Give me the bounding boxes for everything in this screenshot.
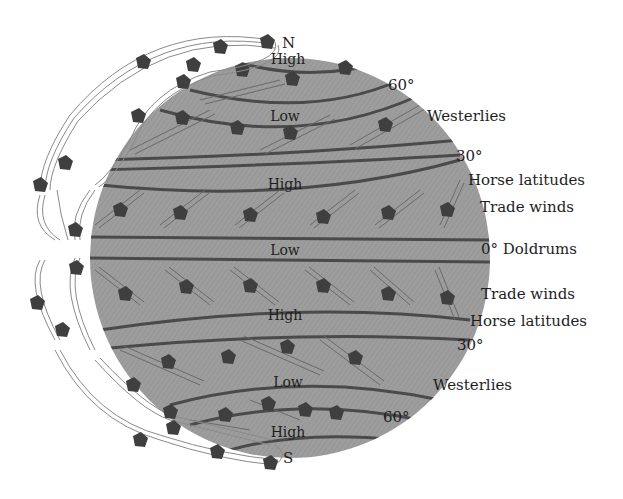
band-label-south-polar-high: High — [271, 424, 306, 440]
band-label-south-subtropical-high: High — [268, 307, 303, 323]
lat-30n-label: 30° — [456, 147, 483, 165]
westerlies-south-label: Westerlies — [433, 376, 512, 394]
band-label-north-subtropical-high: High — [268, 176, 303, 192]
band-label-equatorial-low: Low — [270, 242, 300, 258]
horse-latitudes-north-label: Horse latitudes — [468, 171, 585, 189]
trade-winds-north-label: Trade winds — [480, 198, 574, 216]
south-pole-label: S — [283, 449, 293, 467]
lat-30s-label: 30° — [457, 336, 484, 354]
lat-60s-label: 60° — [383, 408, 410, 426]
band-label-north-polar-high: High — [271, 51, 306, 67]
trade-winds-south-label: Trade winds — [481, 285, 575, 303]
horse-latitudes-south-label: Horse latitudes — [470, 312, 587, 330]
band-label-south-subpolar-low: Low — [273, 374, 303, 390]
doldrums-label: 0° Doldrums — [481, 240, 577, 258]
westerlies-north-label: Westerlies — [427, 107, 506, 125]
north-pole-label: N — [282, 34, 295, 52]
band-label-north-subpolar-low: Low — [270, 108, 300, 124]
lat-60n-label: 60° — [388, 76, 415, 94]
